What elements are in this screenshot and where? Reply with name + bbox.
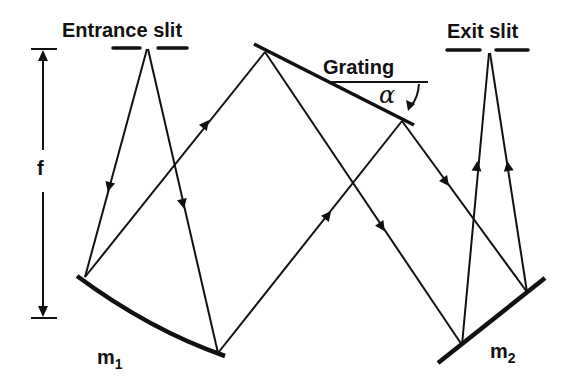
alpha-angle-arc: [411, 84, 419, 106]
grating-label: Grating: [323, 56, 394, 78]
ray-m1-to-grating-right: [218, 121, 402, 353]
focal-length-label: f: [37, 157, 44, 179]
monochromator-diagram: Entrance slit Exit slit Grating α f m1 m…: [0, 0, 569, 379]
mirror-m2-label-base: m: [490, 340, 508, 362]
ray-grating-to-m2-left: [265, 52, 462, 345]
arrow-up-icon: [502, 160, 513, 171]
arrow-up-icon: [472, 161, 483, 172]
dimension-arrow-up-icon: [38, 50, 48, 61]
mirror-m2-label: m2: [490, 340, 516, 366]
ray-grating-to-m2-right: [402, 121, 527, 292]
ray-m1-to-grating-left: [85, 52, 265, 277]
mirror-m1-label: m1: [97, 346, 123, 372]
arrow-down-icon: [177, 198, 189, 210]
light-rays: [85, 49, 527, 353]
mirror-m1-label-sub: 1: [115, 356, 123, 372]
focal-length-dimension: [31, 49, 57, 318]
ray-m2-to-exit-left: [462, 53, 489, 345]
ray-slit-to-m1-left: [85, 49, 147, 277]
exit-slit-label: Exit slit: [447, 20, 518, 42]
mirror-m2-label-sub: 2: [508, 350, 516, 366]
ray-m2-to-exit-right: [490, 53, 527, 292]
mirror-m1-label-base: m: [97, 346, 115, 368]
alpha-angle-label: α: [379, 81, 395, 109]
ray-direction-arrows: [103, 117, 514, 234]
dimension-arrow-down-icon: [38, 306, 48, 317]
entrance-slit-label: Entrance slit: [62, 19, 182, 41]
